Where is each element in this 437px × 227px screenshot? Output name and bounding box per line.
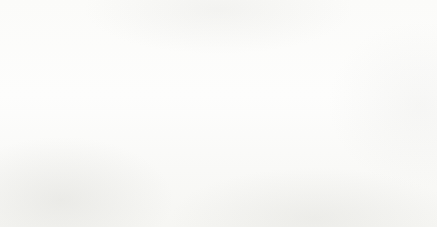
y-axis-tick-label: 1,000,000 [0, 45, 48, 55]
bar-group: 1,076,848 [390, 20, 432, 197]
bar-value-label: 955,499 [354, 43, 385, 53]
bar-group: 593,187 [55, 20, 97, 197]
x-axis-category-label: 2013 [191, 204, 212, 215]
x-axis-category-label: 2012 [149, 204, 170, 215]
bar-group: 808,788 [306, 20, 348, 197]
x-axis-category-label: 2018 [401, 204, 422, 215]
bar-group: 651,291 [139, 20, 181, 197]
x-axis-category-label: 2011 [108, 204, 128, 215]
bar-value-label: 733,850 [270, 76, 301, 86]
y-axis-tick-label: 600,000 [0, 104, 48, 114]
bar [403, 38, 420, 197]
bar [151, 101, 168, 197]
bar-group: 625,981 [97, 20, 139, 197]
x-axis-category-label: 2014 [233, 204, 254, 215]
bar [277, 89, 294, 197]
bar [319, 78, 336, 197]
bar-chart: 593,187625,981651,291694,101676,342733,8… [0, 0, 437, 227]
bar [235, 97, 252, 197]
bar [67, 110, 84, 197]
bar-value-label: 676,342 [228, 84, 259, 94]
bar-value-label: 1,076,848 [392, 25, 430, 35]
x-axis-category-label: 2010 [66, 204, 87, 215]
x-axis-category-label: 2015 [275, 204, 296, 215]
bar-value-label: 808,788 [312, 65, 343, 75]
bar-value-label: 651,291 [144, 88, 175, 98]
bar-value-label: 694,101 [186, 82, 217, 92]
y-axis-tick-label: 400,000 [0, 133, 48, 143]
bar [109, 105, 126, 197]
bar [193, 95, 210, 197]
y-axis-tick-label: 1,200,000 [0, 15, 48, 25]
x-axis-category-label: 2016 [317, 204, 338, 215]
bar-group: 694,101 [181, 20, 223, 197]
x-axis-category-label: 2017 [359, 204, 380, 215]
bar-group: 955,499 [348, 20, 390, 197]
axis-baseline [55, 197, 432, 198]
y-axis-tick-label: 200,000 [0, 163, 48, 173]
bar [361, 56, 378, 197]
plot-area: 593,187625,981651,291694,101676,342733,8… [55, 20, 432, 197]
bar-value-label: 625,981 [102, 92, 133, 102]
bar-group: 733,850 [264, 20, 306, 197]
y-axis-tick-label: 0 [0, 192, 48, 202]
bar-group: 676,342 [223, 20, 265, 197]
y-axis-tick-label: 800,000 [0, 74, 48, 84]
bar-value-label: 593,187 [60, 97, 91, 107]
